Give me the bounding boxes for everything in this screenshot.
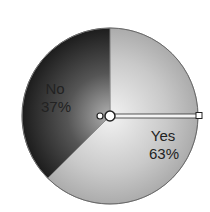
label-no-name: No bbox=[45, 80, 64, 97]
label-yes-pct: 63% bbox=[149, 145, 179, 162]
label-yes-name: Yes bbox=[151, 127, 175, 144]
radius-handle-square[interactable] bbox=[196, 113, 202, 119]
center-handle-circle[interactable] bbox=[105, 111, 115, 121]
radius-handle-bar[interactable] bbox=[114, 114, 199, 118]
inner-handle-circle[interactable] bbox=[97, 113, 103, 119]
label-no-pct: 37% bbox=[41, 98, 71, 115]
pie-chart: No 37% Yes 63% bbox=[0, 0, 210, 212]
